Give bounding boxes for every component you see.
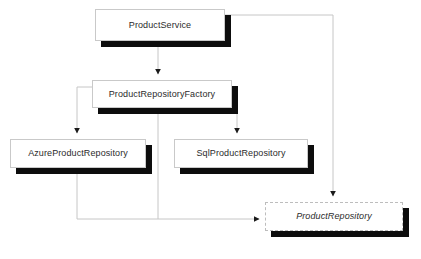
class-diagram-canvas: ProductService ProductRepositoryFactory … — [0, 0, 421, 259]
edge-azure-to-repository — [77, 168, 259, 219]
node-product-service[interactable]: ProductService — [95, 9, 225, 41]
node-sql-product-repository[interactable]: SqlProductRepository — [174, 139, 308, 168]
edge-factory-to-azure — [77, 87, 92, 133]
node-label-product-service: ProductService — [129, 21, 191, 30]
node-label-sql-product-repository: SqlProductRepository — [196, 149, 285, 158]
node-label-product-repository: ProductRepository — [296, 212, 372, 221]
node-product-repository[interactable]: ProductRepository — [265, 202, 403, 231]
node-azure-product-repository[interactable]: AzureProductRepository — [10, 139, 146, 168]
node-product-repository-factory[interactable]: ProductRepositoryFactory — [92, 80, 232, 108]
node-label-azure-product-repository: AzureProductRepository — [28, 149, 128, 158]
node-label-product-repository-factory: ProductRepositoryFactory — [109, 90, 215, 99]
